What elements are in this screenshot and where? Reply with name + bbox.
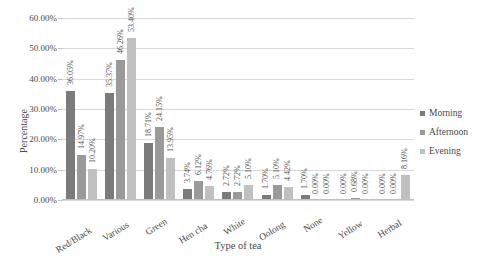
bar-value-label: 5.10% — [273, 158, 281, 179]
x-axis-tick-label: Yellow — [337, 218, 365, 241]
bar-value-label: 0.00% — [362, 173, 370, 194]
bar-value-label: 14.97% — [78, 124, 86, 149]
bar[interactable] — [127, 38, 136, 200]
bar-slot: 2.72% — [222, 18, 231, 200]
legend-label: Afternoon — [429, 127, 468, 137]
bar-value-label: 35.37% — [106, 62, 114, 87]
x-axis-tick-label: White — [222, 216, 247, 237]
bar-slot: 13.95% — [166, 18, 175, 200]
bar[interactable] — [105, 93, 114, 200]
x-axis-tick-label: Green — [144, 216, 169, 237]
bar-slot: 5.10% — [273, 18, 282, 200]
bar-group: 0.00%0.68%0.00% — [336, 18, 375, 200]
bar-slot: 18.71% — [144, 18, 153, 200]
x-axis-line — [62, 199, 414, 200]
bar[interactable] — [144, 143, 153, 200]
y-axis-tick-label: 20.00% — [29, 134, 57, 144]
grouped-bar-chart: Percentage 0.00%10.00%20.00%30.00%40.00%… — [0, 0, 484, 262]
bar-value-label: 1.70% — [262, 168, 270, 189]
bar-value-label: 46.26% — [117, 29, 125, 54]
bar[interactable] — [205, 186, 214, 200]
bar-group: 0.00%0.00%8.16% — [375, 18, 414, 200]
bar-slot: 4.42% — [284, 18, 293, 200]
bar-value-label: 5.10% — [245, 158, 253, 179]
bar-group: 18.71%24.15%13.95% — [140, 18, 179, 200]
y-axis-tick-label: 50.00% — [29, 43, 57, 53]
bar-slot: 1.70% — [262, 18, 271, 200]
bar-slot: 0.00% — [362, 18, 371, 200]
bar-group: 36.05%14.97%10.20% — [62, 18, 101, 200]
legend-swatch-icon — [420, 130, 425, 135]
gridline — [62, 200, 414, 201]
bar[interactable] — [244, 185, 253, 200]
bar-value-label: 0.00% — [323, 173, 331, 194]
bar-slot: 2.72% — [233, 18, 242, 200]
bar-slot: 8.16% — [401, 18, 410, 200]
bar-slot: 1.70% — [301, 18, 310, 200]
legend-item[interactable]: Afternoon — [420, 127, 468, 137]
bar-group: 3.74%6.12%4.76% — [179, 18, 218, 200]
bar[interactable] — [273, 185, 282, 200]
legend-label: Morning — [429, 108, 462, 118]
y-axis-tick-label: 30.00% — [29, 104, 57, 114]
x-axis-tick-label: Herbal — [376, 218, 403, 240]
bar-slot: 5.10% — [244, 18, 253, 200]
bar[interactable] — [166, 158, 175, 200]
bar-slot: 36.05% — [66, 18, 75, 200]
bar-value-label: 10.20% — [89, 138, 97, 163]
bar-value-label: 36.05% — [67, 60, 75, 85]
bar-value-label: 0.00% — [340, 173, 348, 194]
bar-group: 1.70%0.00%0.00% — [297, 18, 336, 200]
legend-swatch-icon — [420, 111, 425, 116]
bar-value-label: 18.71% — [145, 113, 153, 138]
bar-slot: 0.00% — [312, 18, 321, 200]
bar-value-label: 8.16% — [401, 149, 409, 170]
bar-group: 1.70%5.10%4.42% — [258, 18, 297, 200]
bar[interactable] — [155, 127, 164, 200]
bar-value-label: 6.12% — [195, 155, 203, 176]
legend-item[interactable]: Evening — [420, 146, 468, 156]
bar-slot: 0.68% — [351, 18, 360, 200]
bar-slot: 0.00% — [340, 18, 349, 200]
bar-slot: 35.37% — [105, 18, 114, 200]
bar-value-label: 0.00% — [312, 173, 320, 194]
bar[interactable] — [284, 187, 293, 200]
y-axis-tick-label: 0.00% — [34, 195, 57, 205]
bar-slot: 24.15% — [155, 18, 164, 200]
bar-slot: 0.00% — [390, 18, 399, 200]
bar-slot: 14.97% — [77, 18, 86, 200]
y-axis-title: Percentage — [18, 109, 29, 153]
chart-legend: MorningAfternoonEvening — [420, 108, 468, 156]
bar-value-label: 2.72% — [223, 165, 231, 186]
bar[interactable] — [194, 181, 203, 200]
bar-slot: 0.00% — [323, 18, 332, 200]
bar-groups: 36.05%14.97%10.20%35.37%46.26%53.40%18.7… — [62, 18, 414, 200]
bar-value-label: 24.15% — [156, 96, 164, 121]
x-axis-tick-label: None — [302, 215, 325, 234]
bar-value-label: 2.72% — [234, 165, 242, 186]
plot-area: 0.00%10.00%20.00%30.00%40.00%50.00%60.00… — [62, 18, 414, 200]
bar-slot: 10.20% — [88, 18, 97, 200]
y-axis-tick-label: 60.00% — [29, 13, 57, 23]
bar-value-label: 3.74% — [184, 162, 192, 183]
legend-label: Evening — [429, 146, 461, 156]
bar[interactable] — [401, 175, 410, 200]
bar[interactable] — [116, 60, 125, 200]
y-axis-tick-mark — [58, 200, 62, 201]
x-axis-title: Type of tea — [62, 240, 414, 251]
bar-value-label: 0.00% — [379, 173, 387, 194]
bar-value-label: 0.68% — [351, 171, 359, 192]
bar[interactable] — [88, 169, 97, 200]
bar-value-label: 4.76% — [206, 159, 214, 180]
bar[interactable] — [66, 91, 75, 200]
bar[interactable] — [77, 155, 86, 200]
legend-item[interactable]: Morning — [420, 108, 468, 118]
bar-value-label: 13.95% — [167, 127, 175, 152]
bar-slot: 6.12% — [194, 18, 203, 200]
bar-value-label: 53.40% — [128, 7, 136, 32]
y-axis-tick-label: 40.00% — [29, 74, 57, 84]
y-axis-tick-label: 10.00% — [29, 165, 57, 175]
legend-swatch-icon — [420, 149, 425, 154]
bar-group: 2.72%2.72%5.10% — [218, 18, 257, 200]
bar-slot: 53.40% — [127, 18, 136, 200]
